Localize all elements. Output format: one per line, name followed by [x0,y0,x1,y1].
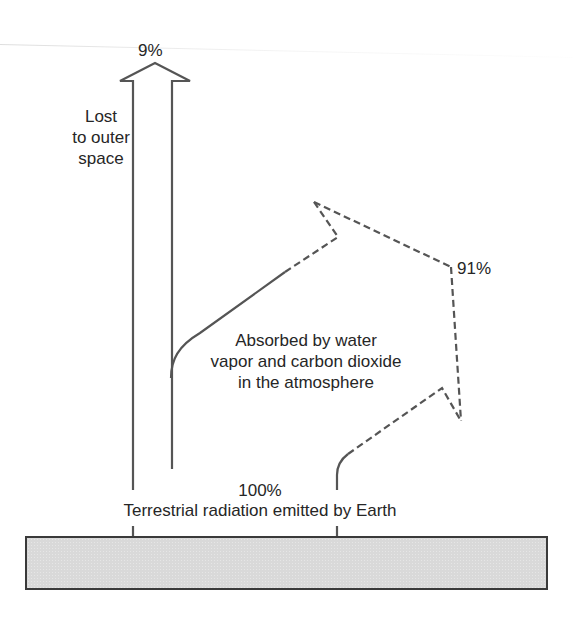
lost-line-3: space [70,148,132,169]
absorbed-line-2: vapor and carbon dioxide [206,351,406,372]
reradiated-dashed [348,388,461,454]
lost-line-2: to outer [70,127,132,148]
lost-line-1: Lost [70,106,132,127]
absorbed-line-1: Absorbed by water [206,330,406,351]
absorbed-percent-label: 91% [457,258,491,279]
absorbed-branch-dashed [285,202,338,272]
absorbed-line-3: in the atmosphere [206,372,406,393]
diagram-lines [0,0,573,627]
absorbed-right-dashed [451,267,461,421]
emitted-caption: Terrestrial radiation emitted by Earth [60,500,460,521]
absorbed-label: Absorbed by water vapor and carbon dioxi… [206,330,406,393]
emitted-percent-label: 100% [210,480,310,501]
radiation-diagram: 9% Lost to outer space 91% Absorbed by w… [0,0,573,627]
lost-to-space-label: Lost to outer space [70,106,132,169]
earth-surface [25,536,548,590]
absorbed-upper-dashed [314,202,451,267]
lost-percent-label: 9% [138,40,163,61]
reradiated-solid-stem [337,454,348,490]
